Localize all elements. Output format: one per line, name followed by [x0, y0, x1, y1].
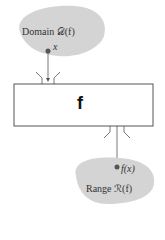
range-blob — [76, 158, 155, 204]
output-label: f(x) — [121, 163, 135, 174]
range-label: Range ℛ(f) — [86, 183, 132, 194]
function-label: f — [77, 93, 83, 114]
input-label: x — [53, 41, 57, 52]
domain-label: Domain 𝒟(f) — [22, 26, 75, 38]
function-box — [14, 84, 153, 126]
input-arrowhead — [46, 78, 50, 82]
output-point — [115, 165, 120, 170]
